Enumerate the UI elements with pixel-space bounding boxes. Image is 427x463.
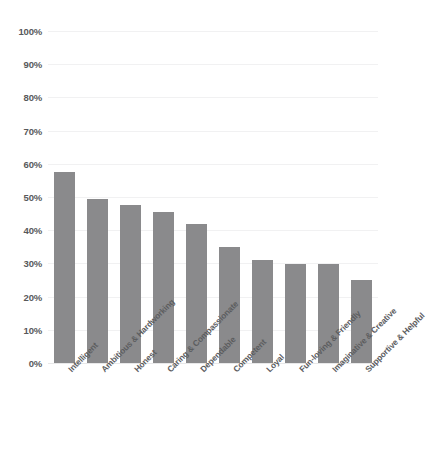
y-axis-tick-label: 0% (2, 358, 42, 369)
y-axis-tick-label: 40% (2, 225, 42, 236)
y-axis-tick-label: 50% (2, 192, 42, 203)
y-axis-tick-label: 60% (2, 158, 42, 169)
bar (285, 264, 307, 363)
y-axis-tick-label: 20% (2, 291, 42, 302)
plot-area (48, 31, 378, 363)
y-axis-tick-label: 70% (2, 125, 42, 136)
y-axis-tick-label: 30% (2, 258, 42, 269)
x-axis-category-labels: IntelligentAmbitious & HardworkingHonest… (48, 364, 378, 463)
bars (48, 31, 378, 363)
y-axis-tick-label: 100% (2, 26, 42, 37)
bar (153, 212, 175, 363)
y-axis-tick-label: 90% (2, 59, 42, 70)
bar (54, 172, 76, 363)
bar (87, 199, 109, 363)
y-axis-tick-label: 10% (2, 324, 42, 335)
y-axis-tick-label: 80% (2, 92, 42, 103)
